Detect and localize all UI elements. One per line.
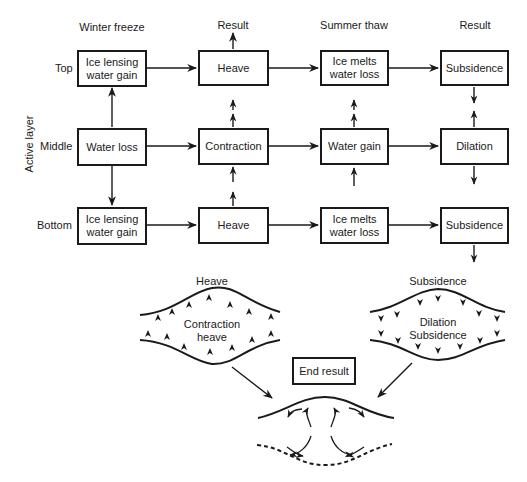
box-middle-water-loss-text: Water loss (86, 141, 138, 154)
box-bottom-ice-lensing: Ice lensing water gain (77, 207, 147, 245)
box-top-ice-lensing: Ice lensing water gain (77, 50, 147, 87)
end-result-box: End result (292, 357, 356, 385)
row-label-middle: Middle (40, 140, 72, 153)
box-top-subsidence-text: Subsidence (446, 62, 504, 75)
box-top-ice-melts: Ice melts water loss (320, 50, 389, 86)
box-top-ice-melts-text: Ice melts water loss (330, 55, 380, 81)
header-result-1: Result (203, 19, 263, 32)
box-bottom-heave-text: Heave (218, 219, 250, 232)
left-lens-inner: Contraction heave (180, 318, 244, 344)
box-middle-water-loss: Water loss (77, 128, 147, 166)
end-result-text: End result (299, 365, 349, 378)
header-summer-thaw: Summer thaw (310, 19, 398, 32)
row-label-top: Top (55, 62, 73, 75)
box-top-heave-text: Heave (218, 62, 250, 75)
box-middle-dilation-text: Dilation (456, 140, 493, 153)
box-bottom-subsidence: Subsidence (440, 207, 509, 244)
right-lens-inner: Dilation Subsidence (402, 316, 474, 342)
box-middle-contraction: Contraction (198, 128, 269, 165)
left-lens-title: Heave (190, 275, 234, 288)
freeze-thaw-diagram: Active layer Winter freeze Result Summer… (0, 0, 527, 482)
box-top-subsidence: Subsidence (440, 50, 509, 86)
box-bottom-heave: Heave (198, 207, 269, 244)
row-label-bottom: Bottom (37, 219, 72, 232)
axis-label-active-layer: Active layer (23, 109, 35, 179)
box-middle-dilation: Dilation (440, 128, 509, 165)
header-winter-freeze: Winter freeze (72, 21, 152, 34)
right-lens-title: Subsidence (400, 275, 476, 288)
box-bottom-ice-lensing-text: Ice lensing water gain (86, 213, 139, 239)
header-result-2: Result (445, 19, 505, 32)
box-middle-contraction-text: Contraction (205, 140, 261, 153)
box-bottom-ice-melts-text: Ice melts water loss (330, 213, 380, 239)
box-top-ice-lensing-text: Ice lensing water gain (86, 56, 139, 82)
box-middle-water-gain-text: Water gain (328, 140, 381, 153)
box-top-heave: Heave (198, 50, 269, 86)
box-bottom-subsidence-text: Subsidence (446, 219, 504, 232)
box-bottom-ice-melts: Ice melts water loss (320, 207, 389, 244)
box-middle-water-gain: Water gain (320, 128, 389, 165)
